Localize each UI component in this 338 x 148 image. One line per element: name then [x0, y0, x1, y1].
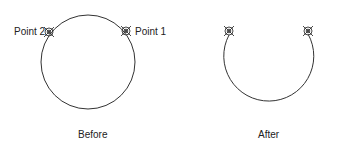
after-arc [224, 34, 314, 101]
before-circle [41, 15, 135, 109]
after-point2-marker-icon [224, 26, 234, 36]
point1-label: Point 1 [135, 26, 166, 37]
before-caption: Before [78, 129, 107, 140]
diagram-canvas [0, 0, 338, 148]
after-caption: After [258, 129, 279, 140]
point2-label: Point 2 [14, 26, 45, 37]
